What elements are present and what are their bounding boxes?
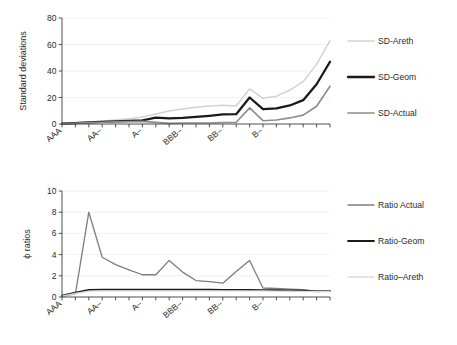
y-axis-tick-label: 60: [47, 40, 57, 50]
y-axis-tick-label: 6: [52, 228, 57, 238]
svg-text:AAA: AAA: [44, 125, 64, 144]
series-line-ratio-areth: [62, 291, 330, 296]
x-axis-category-label: BBB–: [161, 125, 184, 147]
svg-text:AAA: AAA: [44, 298, 64, 317]
y-axis-tick-label: 8: [52, 207, 57, 217]
svg-text:BB–: BB–: [205, 298, 224, 316]
standard-deviations-chart: 020406080AAAAA–A–BBB–BB–B–Standard devia…: [0, 0, 457, 172]
svg-text:A–: A–: [129, 298, 144, 313]
y-axis-tick-label: 80: [47, 13, 57, 23]
y-axis-tick-label: 4: [52, 250, 57, 260]
svg-text:Standard deviations: Standard deviations: [18, 31, 28, 111]
svg-text:BBB–: BBB–: [161, 298, 184, 320]
chart-panel-phi-ratios: 0246810AAAAA–A–BBB–BB–B–ϕ ratiosRatio Ac…: [0, 173, 457, 345]
legend-label-sd-actual: SD-Actual: [378, 108, 417, 118]
svg-text:BB–: BB–: [205, 125, 224, 143]
x-axis-category-label: B–: [250, 125, 265, 140]
svg-text:AA–: AA–: [85, 298, 104, 316]
y-axis-tick-label: 20: [47, 93, 57, 103]
y-axis-title: ϕ ratios: [22, 229, 32, 259]
x-axis-category-label: AAA: [44, 125, 64, 144]
x-axis-category-label: AA–: [85, 298, 104, 316]
x-axis-category-label: BB–: [205, 125, 224, 143]
legend-label-ratio-actual: Ratio Actual: [378, 200, 424, 210]
svg-text:AA–: AA–: [85, 125, 104, 143]
x-axis-category-label: AA–: [85, 125, 104, 143]
y-axis-tick-label: 10: [47, 186, 57, 196]
x-axis-category-label: AAA: [44, 298, 64, 317]
svg-text:ϕ ratios: ϕ ratios: [22, 229, 32, 259]
y-axis-tick-label: 2: [52, 271, 57, 281]
y-axis-tick-label: 40: [47, 66, 57, 76]
legend-label-ratio-geom: Ratio-Geom: [378, 236, 424, 246]
svg-text:A–: A–: [129, 125, 144, 140]
x-axis-category-label: A–: [129, 298, 144, 313]
svg-text:B–: B–: [250, 125, 265, 140]
chart-panel-standard-deviations: 020406080AAAAA–A–BBB–BB–B–Standard devia…: [0, 0, 457, 172]
x-axis-category-label: BBB–: [161, 298, 184, 320]
phi-ratios-chart: 0246810AAAAA–A–BBB–BB–B–ϕ ratiosRatio Ac…: [0, 173, 457, 345]
legend-label-sd-areth: SD-Areth: [378, 36, 414, 46]
legend-label-ratio-areth: Ratio–Areth: [378, 272, 424, 282]
legend-label-sd-geom: SD-Geom: [378, 72, 416, 82]
y-axis-title: Standard deviations: [18, 31, 28, 111]
x-axis-category-label: B–: [250, 298, 265, 313]
svg-text:B–: B–: [250, 298, 265, 313]
series-line-sd-areth: [62, 41, 330, 124]
x-axis-category-label: A–: [129, 125, 144, 140]
svg-text:BBB–: BBB–: [161, 125, 184, 147]
x-axis-category-label: BB–: [205, 298, 224, 316]
figure-container: 020406080AAAAA–A–BBB–BB–B–Standard devia…: [0, 0, 457, 345]
